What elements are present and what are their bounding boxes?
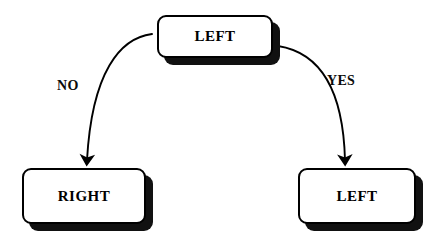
node-top-label: LEFT [194, 29, 235, 44]
edge-label-no: NO [57, 78, 79, 94]
edge-arrow-yes [278, 46, 345, 160]
edge-arrow-no [87, 34, 152, 160]
edge-label-yes: YES [327, 73, 355, 89]
node-bottom-left-label: RIGHT [58, 189, 111, 204]
diagram-canvas: LEFT RIGHT LEFT NO YES [0, 0, 434, 251]
node-bottom-left-outcome[interactable]: LEFT [298, 168, 416, 224]
node-bottom-right-label: LEFT [336, 189, 377, 204]
node-bottom-right-outcome[interactable]: RIGHT [22, 168, 146, 224]
node-top-left[interactable]: LEFT [157, 15, 273, 58]
